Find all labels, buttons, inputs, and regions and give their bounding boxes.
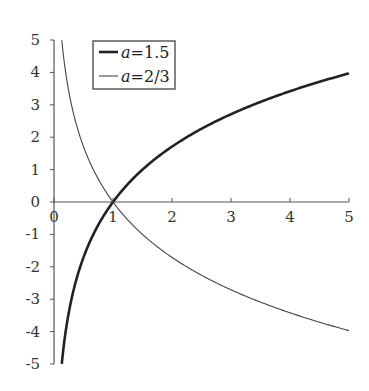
x-tick-label: 0: [49, 208, 59, 226]
y-tick-label: 1: [30, 161, 40, 179]
y-tick-label: -5: [25, 355, 40, 373]
y-tick-label: 5: [30, 31, 40, 49]
legend: a=1.5a=2/3: [93, 41, 175, 89]
legend-label: a=1.5: [121, 43, 169, 62]
y-tick-label: 4: [30, 63, 40, 81]
y-tick-label: 3: [30, 96, 40, 114]
y-tick-label: -2: [25, 258, 40, 276]
x-tick-label: 2: [167, 208, 177, 226]
x-tick-label: 4: [285, 208, 295, 226]
legend-label: a=2/3: [121, 67, 170, 86]
y-tick-label: 0: [30, 193, 40, 211]
curve-a-1-5: [62, 73, 349, 363]
y-tick-label: -4: [25, 323, 40, 341]
log-functions-chart: 543210-1-2-3-4-5012345 a=1.5a=2/3: [0, 0, 369, 391]
x-tick-label: 5: [344, 208, 354, 226]
y-tick-label: -1: [25, 225, 40, 243]
y-tick-label: -3: [25, 290, 40, 308]
x-tick-label: 3: [226, 208, 236, 226]
y-tick-label: 2: [30, 128, 40, 146]
x-tick-label: 1: [108, 208, 118, 226]
